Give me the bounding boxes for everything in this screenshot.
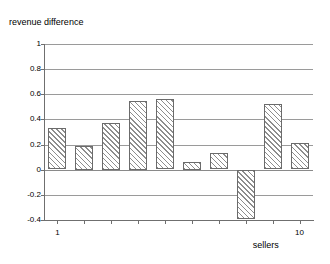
bar [156,99,174,169]
y-tick-label: -0.4 [27,216,41,224]
y-axis-tick-labels: 10.80.60.40.20-0.2-0.4 [0,0,41,264]
x-axis-label: sellers [253,240,279,250]
x-tick-mark [57,221,58,224]
x-tick-mark [165,221,166,224]
bar [48,128,66,169]
y-tick-label: 0.6 [30,90,41,98]
x-tick-mark [138,221,139,224]
x-tick-mark [84,221,85,224]
bar [102,123,120,170]
x-tick-mark [219,221,220,224]
revenue-difference-bar-chart: revenue difference 10.80.60.40.20-0.2-0.… [0,0,330,264]
x-tick-label: 1 [42,228,72,237]
y-tick-label: 0.8 [30,65,41,73]
bar [183,162,201,170]
y-tick-label: 0.2 [30,141,41,149]
x-tick-mark [246,221,247,224]
bar [264,104,282,169]
bar [129,101,147,170]
x-tick-mark [111,221,112,224]
x-tick-mark [300,221,301,224]
bar [75,146,93,170]
x-tick-mark [273,221,274,224]
x-tick-label: 10 [285,228,315,237]
bar [291,143,309,169]
y-tick-label: 0.4 [30,115,41,123]
bar [210,153,228,169]
x-tick-mark [192,221,193,224]
bars-layer [44,44,313,220]
y-tick-label: -0.2 [27,191,41,199]
bar [237,170,255,219]
